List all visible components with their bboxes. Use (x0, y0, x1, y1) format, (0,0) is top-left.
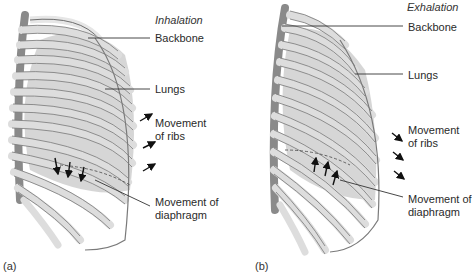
panel-b-ribs-label-2: of ribs (408, 137, 438, 149)
panel-a-diaphragm-label-2: diaphragm (155, 209, 207, 221)
panel-a-ribs-label-2: of ribs (155, 130, 185, 142)
panel-b-diaphragm-label-2: diaphragm (408, 206, 460, 218)
panel-a-backbone-label: Backbone (155, 32, 204, 44)
panel-b-title: Exhalation (407, 1, 458, 13)
panel-a-ribs-label-1: Movement (155, 117, 206, 129)
panel-a-diaphragm-label-1: Movement of (155, 196, 219, 208)
ribcage-exhalation-icon (274, 8, 404, 254)
panel-b-ribs-label-1: Movement (408, 124, 459, 136)
ribcage-inhalation-icon (12, 15, 155, 250)
panel-b-backbone-label: Backbone (408, 21, 457, 33)
panel-a-title: Inhalation (155, 14, 203, 26)
panel-a-lungs-label: Lungs (155, 83, 185, 95)
panel-b-diaphragm-label-1: Movement of (408, 193, 472, 205)
panel-a-label: (a) (3, 260, 16, 272)
panel-b-label: (b) (255, 260, 268, 272)
panel-b-lungs-label: Lungs (408, 69, 438, 81)
